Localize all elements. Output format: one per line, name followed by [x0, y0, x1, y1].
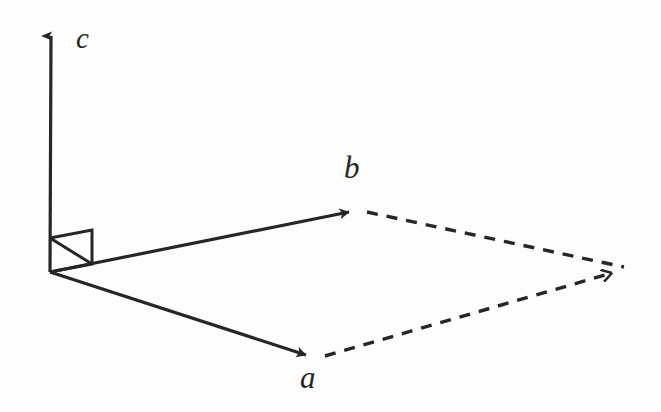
axis-label-c: c — [76, 24, 89, 53]
axis-a-line — [50, 272, 306, 355]
dashed-edge-a-to-vertex — [325, 273, 612, 356]
axes-diagram-svg — [0, 0, 661, 412]
axis-label-b: b — [344, 152, 360, 183]
axis-label-a: a — [300, 362, 316, 393]
axis-b-line — [50, 212, 349, 272]
figure-root: c b a — [0, 0, 661, 412]
dashed-edge-b-to-vertex — [367, 212, 624, 267]
